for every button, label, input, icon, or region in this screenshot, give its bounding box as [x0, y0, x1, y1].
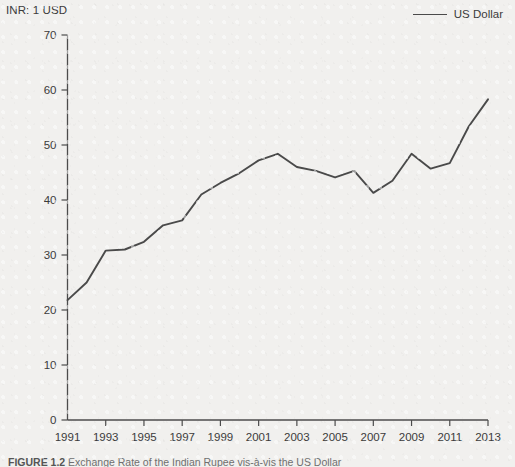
- figure-caption: FIGURE 1.2 Exchange Rate of the Indian R…: [8, 456, 508, 467]
- y-tick-label: 30: [44, 249, 57, 261]
- y-tick-label: 70: [44, 29, 57, 41]
- y-axis: 010203040506070: [44, 29, 68, 426]
- x-tick-label: 2009: [399, 431, 425, 443]
- x-tick-label: 2011: [437, 431, 462, 443]
- x-tick-label: 1999: [208, 431, 234, 443]
- y-tick-label: 20: [44, 304, 57, 316]
- x-tick-label: 2005: [322, 431, 348, 443]
- x-tick-label: 2003: [284, 431, 310, 443]
- y-tick-label: 0: [50, 414, 56, 426]
- x-tick-label: 2007: [361, 431, 387, 443]
- y-tick-label: 50: [44, 139, 57, 151]
- y-tick-label: 40: [44, 194, 57, 206]
- x-tick-label: 1997: [169, 431, 195, 443]
- x-tick-label: 1995: [131, 431, 157, 443]
- x-tick-group: 1991199319951997199920012003200520072009…: [55, 420, 501, 443]
- x-tick-label: 1991: [55, 431, 81, 443]
- x-tick-label: 1993: [93, 431, 119, 443]
- x-tick-label: 2001: [246, 431, 272, 443]
- x-axis: 1991199319951997199920012003200520072009…: [55, 420, 501, 443]
- y-tick-group: 010203040506070: [44, 29, 68, 426]
- y-tick-label: 10: [44, 359, 57, 371]
- x-tick-label: 2013: [475, 431, 501, 443]
- figure-caption-label: FIGURE 1.2: [8, 456, 65, 467]
- chart-plot-area: 010203040506070 199119931995199719992001…: [0, 0, 515, 448]
- series-line-us-dollar: [68, 99, 489, 300]
- data-series-group: [68, 99, 489, 300]
- line-chart-svg: 010203040506070 199119931995199719992001…: [0, 0, 515, 448]
- y-tick-label: 60: [44, 84, 57, 96]
- figure-caption-text: Exchange Rate of the Indian Rupee vis-à-…: [68, 456, 341, 467]
